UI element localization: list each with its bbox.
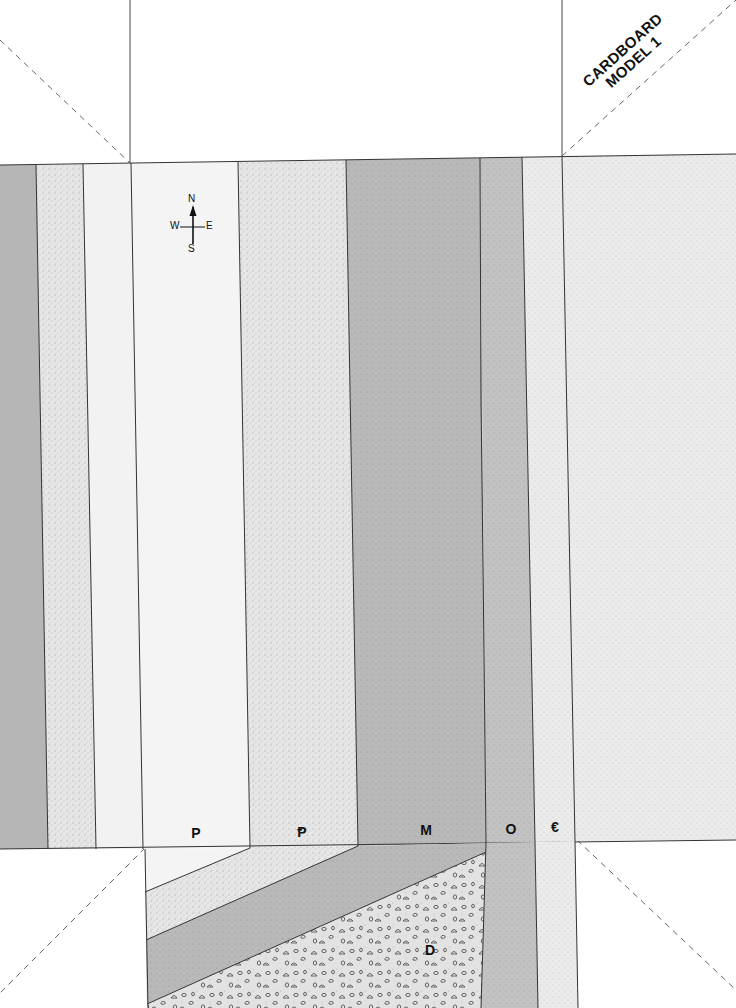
- compass-west-label: W: [170, 221, 179, 231]
- unit-label-permian: P: [191, 826, 200, 840]
- compass-rose-icon: N S W E: [170, 194, 216, 256]
- unit-label-pennsylvanian: Ᵽ: [297, 825, 306, 839]
- unit-label-cambrian: €: [551, 820, 559, 834]
- compass-east-label: E: [206, 221, 213, 231]
- unit-label-mississippian: M: [420, 823, 432, 837]
- map-strips: [0, 154, 736, 849]
- unit-label-ordovician: O: [506, 822, 517, 836]
- geologic-block-model: [0, 0, 736, 1008]
- unit-label-devonian: D: [425, 943, 435, 957]
- compass-south-label: S: [188, 244, 195, 254]
- cross-section-flap: [145, 841, 578, 1008]
- compass-north-label: N: [188, 194, 195, 204]
